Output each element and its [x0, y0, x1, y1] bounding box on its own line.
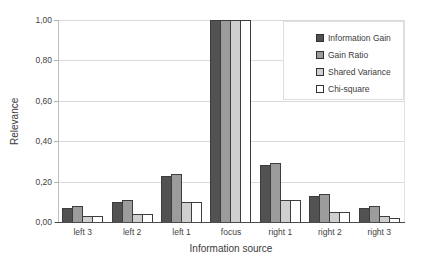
x-axis-category-labels: left 3left 2left 1focusright 1right 2rig… [58, 227, 404, 237]
y-tick-label: 0,40 [18, 136, 52, 146]
legend-item: Information Gain [316, 29, 403, 46]
legend-label: Gain Ratio [328, 50, 368, 60]
bar-chi-square [339, 212, 350, 222]
legend-swatch-icon [316, 34, 324, 42]
category-label: right 3 [355, 227, 404, 237]
category-label: left 1 [157, 227, 206, 237]
bar-group-left-2 [107, 20, 156, 222]
y-tick-label: 0,60 [18, 96, 52, 106]
y-tick-label: 0,00 [18, 217, 52, 227]
category-label: left 2 [107, 227, 156, 237]
category-label: focus [206, 227, 255, 237]
x-axis-title: Information source [58, 243, 404, 254]
y-tick-label: 0,80 [18, 55, 52, 65]
legend-swatch-icon [316, 85, 324, 93]
bar-group-focus [206, 20, 255, 222]
bar-group-left-1 [157, 20, 206, 222]
x-axis-line [55, 222, 405, 223]
y-tick-label: 0,20 [18, 177, 52, 187]
bar-group-left-3 [58, 20, 107, 222]
y-tick-label: 1,00 [18, 15, 52, 25]
bar-chi-square [142, 214, 153, 222]
category-label: right 1 [256, 227, 305, 237]
legend-label: Shared Variance [328, 67, 391, 77]
bar-chi-square [191, 202, 202, 222]
bar-chart: Relevance 0,000,200,400,600,801,00 Infor… [0, 0, 423, 264]
legend: Information GainGain RatioShared Varianc… [283, 21, 404, 100]
legend-item: Gain Ratio [316, 46, 403, 63]
legend-swatch-icon [316, 68, 324, 76]
legend-label: Chi-square [328, 84, 370, 94]
y-axis-title: Relevance [9, 20, 22, 222]
legend-label: Information Gain [328, 33, 391, 43]
bar-chi-square [290, 200, 301, 222]
legend-swatch-icon [316, 51, 324, 59]
bar-chi-square [240, 20, 251, 222]
plot-right-border [404, 20, 405, 222]
legend-item: Chi-square [316, 80, 403, 97]
category-label: left 3 [58, 227, 107, 237]
category-label: right 2 [305, 227, 354, 237]
legend-item: Shared Variance [316, 63, 403, 80]
